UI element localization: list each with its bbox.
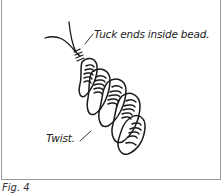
annotation-twist: Twist. bbox=[46, 132, 75, 144]
annotation-tuck-ends: Tuck ends inside bead. bbox=[94, 28, 209, 40]
twisted-bead-illustration bbox=[0, 0, 224, 180]
figure-caption: Fig. 4 bbox=[2, 182, 30, 193]
wire-ends bbox=[45, 22, 80, 56]
bead-lobes bbox=[79, 59, 145, 155]
